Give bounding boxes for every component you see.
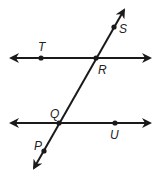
- transversal-PS: [34, 10, 124, 168]
- lines: [11, 10, 150, 168]
- label-t: T: [38, 40, 47, 54]
- label-r: R: [98, 63, 107, 77]
- label-p: P: [34, 139, 42, 153]
- point-q: [56, 120, 61, 125]
- label-q: Q: [50, 107, 59, 121]
- geometry-diagram: T R S Q U P: [0, 0, 159, 174]
- label-s: S: [119, 22, 127, 36]
- point-s: [111, 24, 116, 29]
- label-u: U: [110, 128, 119, 142]
- point-p: [41, 148, 46, 153]
- point-t: [38, 55, 43, 60]
- point-r: [93, 55, 98, 60]
- point-u: [112, 120, 117, 125]
